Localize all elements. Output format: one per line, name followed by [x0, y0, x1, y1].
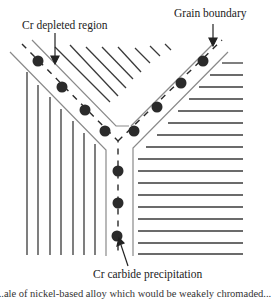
arrow-grain-boundary: [209, 24, 217, 46]
arrow-depleted-region: [51, 33, 59, 64]
right-grain-hatching: [138, 63, 243, 254]
top-grain-hatching: [55, 44, 171, 102]
label-grain-boundary: Grain boundary: [174, 7, 247, 19]
label-cr-carbide-precipitation: Cr carbide precipitation: [93, 268, 202, 280]
carbide-precipitates: [33, 56, 209, 242]
caption-partial: ...ale of nickel-based alloy which would…: [0, 288, 271, 299]
left-grain-hatching: [27, 72, 95, 255]
grain-boundary-line: [22, 40, 222, 256]
arrow-carbide-precipitation: [117, 238, 128, 266]
label-cr-depleted-region: Cr depleted region: [22, 19, 108, 31]
depleted-band-outline: [10, 40, 228, 256]
